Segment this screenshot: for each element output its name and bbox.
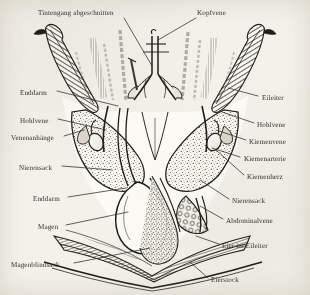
label-nierensack-links: Nierensack [19,165,52,172]
label-kopfvene: Kopfvene [197,10,226,17]
label-enddarm-unten: Enddarm [33,196,60,203]
label-eileiter: Eileiter [262,95,284,102]
label-eierstock: Eierstock [211,277,239,284]
leader-eierstock [190,262,208,278]
ink-duct-cut [128,58,137,90]
anatomy-illustration [0,0,310,295]
label-enddarm-oben: Enddarm [20,90,47,97]
anatomical-figure: Tintengang abgeschnitten Kopfvene Enddar… [0,0,310,295]
label-hohlvene-links: Hohlvene [20,118,49,125]
label-hohlvene-rechts: Hohlvene [257,122,286,129]
label-eier-im-eileiter: Eier im Eileiter [222,243,268,250]
label-abdominalvene: Abdominalvene [226,218,273,225]
label-magen: Magen [38,224,58,231]
label-kiemenvene: Kiemenvene [249,139,286,146]
label-tintengang-abgeschnitten: Tintengang abgeschnitten [38,10,114,17]
leader-eier-im-eileiter [196,236,219,244]
label-kiemenherz: Kiemenherz [247,174,283,181]
label-venenanhaenge: Venenanhänge [11,135,54,142]
label-nierensack-rechts: Nierensack [232,198,265,205]
label-kiemenarterie: Kiemenarterie [244,156,286,163]
leader-kopfvene [158,18,196,40]
leader-tintengang [124,18,152,66]
muscle-strands [76,30,234,104]
label-magenblindsack: Magenblindsack [11,262,60,269]
